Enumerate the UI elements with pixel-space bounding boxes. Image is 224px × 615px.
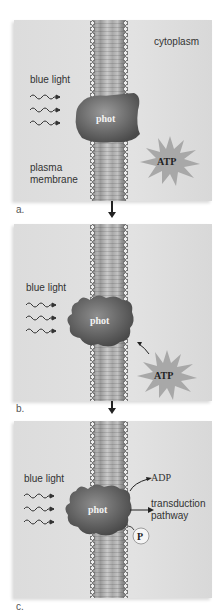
plasma-membrane-label-line2: membrane [30, 174, 78, 186]
phosphate-group: P [128, 524, 152, 546]
phot-label: phot [90, 315, 110, 326]
blue-light-label: blue light [26, 282, 66, 294]
panel-c-label: c. [16, 601, 24, 612]
panel-b: blue light phot ATP [14, 224, 212, 401]
atp-label: ATP [157, 156, 176, 167]
blue-light-label: blue light [24, 473, 64, 485]
phot-protein: phot [72, 92, 142, 147]
arrow-a-to-b [111, 201, 113, 214]
plasma-membrane-label-line1: plasma [30, 162, 62, 174]
panel-b-label: b. [16, 403, 24, 414]
phot-label: phot [96, 113, 116, 124]
blue-light-wave-icon [24, 491, 64, 541]
arrow-b-to-c [111, 401, 113, 410]
atp-burst: ATP [140, 136, 200, 186]
blue-light-label: blue light [30, 74, 70, 86]
transduction-pathway-label-line2: pathway [151, 510, 188, 522]
panel-c: blue light phot ADP transduction pathway… [14, 421, 212, 598]
transduction-pathway-label-line1: transduction [151, 498, 205, 510]
phosphate-label: P [137, 531, 143, 542]
blue-light-wave-icon [30, 92, 70, 142]
phot-protein: phot [64, 292, 139, 352]
atp-label: ATP [154, 370, 173, 381]
panel-a-label: a. [16, 204, 24, 215]
adp-label: ADP [151, 472, 171, 484]
cytoplasm-label: cytoplasm [154, 36, 199, 48]
phot-label: phot [88, 504, 108, 515]
phot-protein: phot [62, 481, 137, 541]
panel-a: cytoplasm blue light phot ATP plasma mem… [14, 20, 212, 201]
blue-light-wave-icon [26, 300, 66, 350]
atp-burst: ATP [137, 350, 197, 400]
